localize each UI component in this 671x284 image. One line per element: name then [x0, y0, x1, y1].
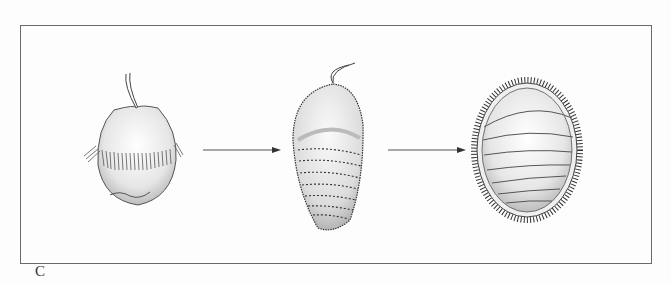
arrow-2: [388, 147, 466, 153]
stage-3-juvenile: [474, 80, 580, 220]
arrow-1: [203, 147, 281, 153]
stage-1-trochophore: [84, 73, 183, 205]
stage-2-larva: [293, 63, 363, 230]
development-diagram: [0, 0, 671, 284]
panel-label: C: [35, 263, 45, 280]
